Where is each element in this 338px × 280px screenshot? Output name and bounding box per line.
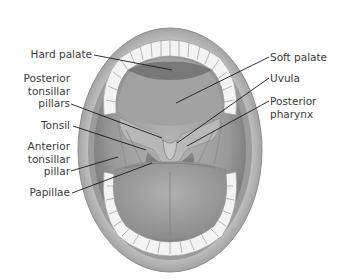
label-soft-palate: Soft palate bbox=[270, 51, 327, 64]
hard-palate-region bbox=[118, 58, 222, 126]
mouth-anatomy-diagram: Hard palate Posterior tonsillar pillars … bbox=[0, 0, 338, 280]
label-papillae: Papillae bbox=[0, 186, 70, 199]
label-tonsil: Tonsil bbox=[0, 119, 70, 132]
label-posterior-pharynx: Posterior pharynx bbox=[270, 95, 316, 120]
label-uvula: Uvula bbox=[270, 72, 300, 85]
label-posterior-tonsillar-pillars: Posterior tonsillar pillars bbox=[0, 72, 70, 110]
label-hard-palate: Hard palate bbox=[0, 48, 92, 61]
label-anterior-tonsillar-pillar: Anterior tonsillar pillar bbox=[0, 140, 70, 178]
